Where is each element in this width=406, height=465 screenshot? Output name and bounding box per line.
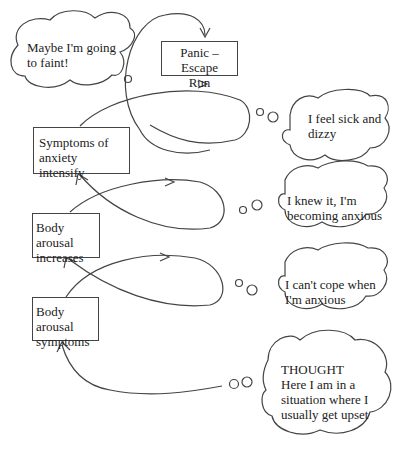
bubble-dot (268, 112, 278, 122)
box-line: increases (36, 250, 94, 265)
bubble-dot (242, 377, 252, 387)
box-line: Body arousal (36, 304, 93, 334)
bubble-dot (257, 109, 264, 116)
box-line: Symptoms of (39, 135, 124, 150)
bubble-dot (230, 380, 239, 389)
thought-line: to faint! (27, 55, 116, 70)
thought-line: becoming anxious (287, 208, 382, 223)
thought-line: I feel sick and (308, 111, 381, 126)
bubble-dot (236, 280, 243, 287)
thought-line: Here I am in a (281, 377, 368, 392)
thought-text-initial: THOUGHT Here I am in a situation where I… (281, 362, 368, 422)
bubble-dot (252, 200, 262, 210)
bubble-dot (247, 285, 257, 295)
thought-line: Maybe I'm going (27, 40, 116, 55)
box-line: Run (167, 75, 232, 90)
thought-line: usually get upset (281, 407, 368, 422)
thought-line: I knew it, I'm (287, 193, 382, 208)
thought-text-faint: Maybe I'm going to faint! (27, 40, 116, 70)
arousal-increases-box: Body arousal increases (32, 213, 100, 258)
box-line: Panic – Escape (167, 45, 232, 75)
box-line: anxiety intensify (39, 150, 124, 180)
thought-text-cope: I can't cope when I'm anxious (285, 277, 376, 307)
box-line: Body arousal (36, 220, 94, 250)
thought-title: THOUGHT (281, 362, 368, 377)
bubble-dot (240, 207, 247, 214)
symptoms-intensify-box: Symptoms of anxiety intensify (33, 127, 130, 174)
arousal-symptoms-box: Body arousal symptoms (32, 297, 99, 341)
thought-line: I can't cope when (285, 277, 376, 292)
thought-text-sick: I feel sick and dizzy (308, 111, 381, 141)
box-line: symptoms (36, 334, 93, 349)
panic-escape-box: Panic – Escape Run (161, 41, 238, 76)
thought-line: I'm anxious (285, 292, 376, 307)
arrow-initial-to-symptoms (62, 345, 222, 394)
thought-line: dizzy (308, 126, 381, 141)
thought-text-knew: I knew it, I'm becoming anxious (287, 193, 382, 223)
thought-line: situation where I (281, 392, 368, 407)
